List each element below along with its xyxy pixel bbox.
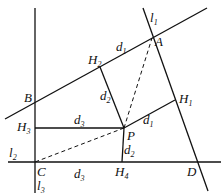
label-A: A xyxy=(154,34,163,49)
label-l3: l3 xyxy=(37,178,45,193)
label-D: D xyxy=(186,164,197,179)
label-C: C xyxy=(37,164,46,179)
geometry-diagram: l1 A d1 H2 d2 B H1 H3 d3 d1 P d2 l2 C d3… xyxy=(0,0,221,193)
label-H1: H1 xyxy=(178,91,192,108)
label-P: P xyxy=(126,128,135,143)
label-H2: H2 xyxy=(87,52,101,69)
label-B: B xyxy=(24,90,32,105)
label-d3-bottom: d3 xyxy=(74,166,85,183)
label-d2-lower: d2 xyxy=(124,142,135,159)
label-H4: H4 xyxy=(114,164,128,181)
label-l1: l1 xyxy=(150,10,158,27)
label-d1-top: d1 xyxy=(116,39,127,56)
label-l2: l2 xyxy=(9,145,17,162)
label-H3: H3 xyxy=(16,119,30,136)
dashed-P-C xyxy=(35,128,124,162)
label-d1-right: d1 xyxy=(143,112,154,129)
line-l1 xyxy=(143,8,208,191)
label-d3-mid: d3 xyxy=(74,112,85,129)
